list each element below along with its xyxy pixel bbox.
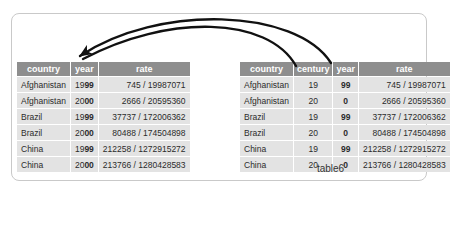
cell-text-part: 20 xyxy=(75,128,84,138)
table-cell: Afghanistan xyxy=(17,93,70,108)
table-cell: 20 xyxy=(294,93,333,108)
table-cell: 2666 / 20595360 xyxy=(359,93,450,108)
cell-text-part: 99 xyxy=(341,144,350,154)
table-row: Brazil20080488 / 174504898 xyxy=(240,125,450,140)
cell-text-part: 00 xyxy=(84,160,93,170)
century-year-table: countrycenturyyearrate Afghanistan199974… xyxy=(239,61,451,173)
column-header-rate: rate xyxy=(99,62,190,76)
united-year-table: countryyearrate Afghanistan1999745 / 199… xyxy=(16,61,191,173)
table-cell: 99 xyxy=(333,141,358,156)
table-cell: 2666 / 20595360 xyxy=(99,93,190,108)
cell-text-part: 99 xyxy=(84,80,93,90)
column-header-year: year xyxy=(71,62,98,76)
cell-text-part: 20 xyxy=(75,160,84,170)
cell-text-part: 99 xyxy=(84,112,93,122)
table-row: China1999212258 / 1272915272 xyxy=(17,141,190,156)
table-cell: Afghanistan xyxy=(240,93,293,108)
table-cell: 1999 xyxy=(71,77,98,92)
table-cell: 37737 / 172006362 xyxy=(359,109,450,124)
column-header-rate: rate xyxy=(359,62,450,76)
table-cell: 19 xyxy=(294,77,333,92)
table-row: Afghanistan2002666 / 20595360 xyxy=(240,93,450,108)
cell-text-part: 99 xyxy=(341,80,350,90)
table-cell: 99 xyxy=(333,77,358,92)
cell-text-part: 00 xyxy=(84,96,93,106)
cell-text-part: 99 xyxy=(341,112,350,122)
table-row: Afghanistan1999745 / 19987071 xyxy=(17,77,190,92)
table-row: China1999212258 / 1272915272 xyxy=(240,141,450,156)
cell-text-part: 20 xyxy=(75,96,84,106)
table-cell: 745 / 19987071 xyxy=(99,77,190,92)
cell-text-part: 19 xyxy=(75,80,84,90)
table-cell: 80488 / 174504898 xyxy=(99,125,190,140)
table-cell: 19 xyxy=(294,109,333,124)
cell-text-part: 99 xyxy=(84,144,93,154)
cell-text-part: 0 xyxy=(343,96,348,106)
table-row: Brazil199937737 / 172006362 xyxy=(240,109,450,124)
table-cell: 20 xyxy=(294,125,333,140)
table-cell: Brazil xyxy=(17,109,70,124)
table-cell: 2000 xyxy=(71,93,98,108)
table-cell: 212258 / 1272915272 xyxy=(99,141,190,156)
table-cell: 1999 xyxy=(71,109,98,124)
header-row: countryyearrate xyxy=(17,62,190,76)
table-cell: 213766 / 1280428583 xyxy=(99,157,190,172)
table-cell: Afghanistan xyxy=(17,77,70,92)
table-cell: Brazil xyxy=(17,125,70,140)
cell-text-part: 19 xyxy=(75,144,84,154)
table-cell: 0 xyxy=(333,93,358,108)
table-cell: 99 xyxy=(333,109,358,124)
table-cell: 2000 xyxy=(71,157,98,172)
table-row: Afghanistan20002666 / 20595360 xyxy=(17,93,190,108)
cell-text-part: 0 xyxy=(343,128,348,138)
cell-text-part: 19 xyxy=(75,112,84,122)
table-cell: 212258 / 1272915272 xyxy=(359,141,450,156)
table-row: China2000213766 / 1280428583 xyxy=(17,157,190,172)
column-header-century: century xyxy=(294,62,333,76)
table-cell: 0 xyxy=(333,125,358,140)
table-cell: Afghanistan xyxy=(240,77,293,92)
cell-text-part: 00 xyxy=(84,128,93,138)
table-cell: 1999 xyxy=(71,141,98,156)
column-header-year: year xyxy=(333,62,358,76)
table-cell: China xyxy=(240,141,293,156)
table-cell: China xyxy=(17,157,70,172)
table-cell: 745 / 19987071 xyxy=(359,77,450,92)
table-cell: 37737 / 172006362 xyxy=(99,109,190,124)
table-cell: 19 xyxy=(294,141,333,156)
table-caption: table6 xyxy=(239,163,422,174)
table-row: Afghanistan1999745 / 19987071 xyxy=(240,77,450,92)
table-cell: 80488 / 174504898 xyxy=(359,125,450,140)
column-header-country: country xyxy=(17,62,70,76)
header-row: countrycenturyyearrate xyxy=(240,62,450,76)
table-cell: China xyxy=(17,141,70,156)
table-cell: Brazil xyxy=(240,109,293,124)
column-header-country: country xyxy=(240,62,293,76)
table-cell: Brazil xyxy=(240,125,293,140)
table-row: Brazil200080488 / 174504898 xyxy=(17,125,190,140)
table-cell: 2000 xyxy=(71,125,98,140)
table-row: Brazil199937737 / 172006362 xyxy=(17,109,190,124)
